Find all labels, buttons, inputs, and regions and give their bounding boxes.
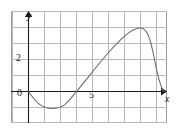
horizontal-gridlines bbox=[11, 12, 167, 123]
coordinate-plot-svg bbox=[11, 11, 167, 123]
plot-area bbox=[11, 11, 167, 123]
y-tick-label-2: 2 bbox=[16, 53, 21, 63]
plot-border bbox=[12, 12, 167, 123]
graph-screenshot: y x 2 0 5 bbox=[0, 0, 178, 132]
y-axis-label: y bbox=[27, 11, 31, 21]
x-axis-label: x bbox=[165, 94, 169, 104]
x-tick-label-5: 5 bbox=[89, 90, 94, 100]
origin-tick-label-0: 0 bbox=[17, 88, 22, 98]
function-curve bbox=[29, 28, 164, 109]
